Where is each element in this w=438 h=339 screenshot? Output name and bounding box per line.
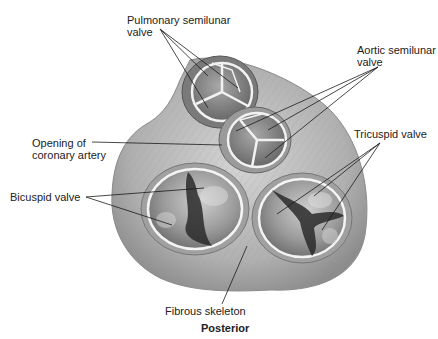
label-bicuspid-valve: Bicuspid valve [10, 191, 80, 203]
label-fibrous-skeleton: Fibrous skeleton [165, 305, 246, 317]
label-aortic-valve: Aortic semilunar valve [357, 44, 436, 68]
orientation-label: Posterior [201, 322, 249, 334]
label-bicuspid-line1: Bicuspid valve [10, 191, 80, 203]
label-aortic-line2: valve [357, 56, 436, 68]
label-coronary-opening: Opening of coronary artery [32, 137, 106, 161]
label-pulmonary-valve: Pulmonary semilunar valve [127, 14, 230, 38]
bicuspid-valve [141, 163, 249, 255]
tricuspid-valve [252, 173, 352, 263]
label-pulmonary-line1: Pulmonary semilunar [127, 14, 230, 26]
label-tricuspid-line1: Tricuspid valve [354, 128, 427, 140]
label-tricuspid-valve: Tricuspid valve [354, 128, 427, 140]
label-aortic-line1: Aortic semilunar [357, 44, 436, 56]
aortic-valve [219, 107, 291, 173]
label-coronary-line2: coronary artery [32, 149, 106, 161]
label-pulmonary-line2: valve [127, 26, 230, 38]
heart-valves-diagram: Pulmonary semilunar valve Aortic semilun… [0, 0, 438, 339]
label-fibrous-line1: Fibrous skeleton [165, 305, 246, 317]
label-coronary-line1: Opening of [32, 137, 106, 149]
